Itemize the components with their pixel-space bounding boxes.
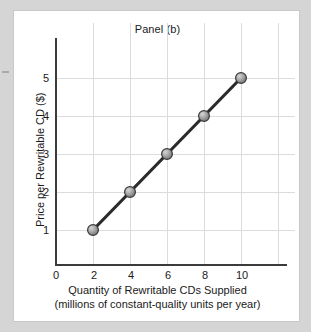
scan-edge-artifact bbox=[2, 71, 9, 73]
data-point-marker bbox=[88, 225, 99, 236]
data-point-marker bbox=[125, 187, 136, 198]
chart-card: Panel (b) 5 4 3 2 1 0 2 4 6 8 10 Price p… bbox=[13, 10, 300, 322]
data-point-marker bbox=[162, 149, 173, 160]
data-point-marker bbox=[199, 111, 210, 122]
figure-root: Panel (b) 5 4 3 2 1 0 2 4 6 8 10 Price p… bbox=[0, 0, 311, 332]
data-point-marker bbox=[236, 73, 247, 84]
supply-curve-svg bbox=[14, 11, 301, 323]
